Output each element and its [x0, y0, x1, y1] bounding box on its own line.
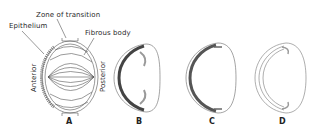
panel-label-b: B	[136, 117, 142, 126]
label-fibrous-body: Fibrous body	[85, 29, 131, 37]
label-posterior: Posterior	[99, 61, 107, 92]
panel-label-d: D	[279, 117, 286, 126]
panel-c-lens	[186, 43, 236, 113]
panel-label-c: C	[209, 117, 215, 126]
label-epithelium: Epithelium	[9, 22, 47, 30]
lens-diagram	[0, 0, 318, 129]
panel-label-a: A	[66, 117, 72, 126]
panel-b-lens	[114, 44, 160, 112]
label-zone-of-transition: Zone of transition	[36, 11, 100, 19]
panel-d-lens	[255, 43, 306, 113]
label-anterior: Anterior	[30, 64, 38, 92]
